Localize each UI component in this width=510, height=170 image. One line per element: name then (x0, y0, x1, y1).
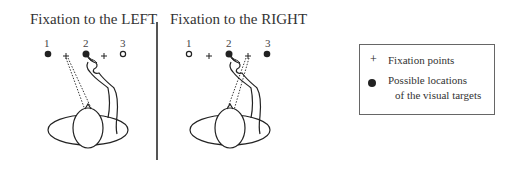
legend-fixation-label: Fixation points (388, 53, 454, 67)
legend-target-label-line1: Possible locations (388, 73, 467, 87)
fixation-plus-icon: + (370, 52, 377, 67)
right-panel-drawing (186, 51, 270, 149)
left-panel-drawing (45, 51, 128, 149)
gaze-lines (66, 58, 92, 110)
legend-target-label-line2: of the visual targets (395, 88, 481, 102)
legend-box: + Fixation points Possible locations of … (359, 44, 495, 115)
head-icon (73, 108, 103, 148)
panel-divider (156, 22, 158, 160)
fixation-plus-icon (101, 53, 107, 59)
target-open-icon (186, 51, 191, 56)
target-filled-icon (368, 79, 376, 87)
head-icon (215, 108, 245, 148)
target-filled-icon (264, 51, 271, 58)
target-open-icon (120, 51, 125, 56)
fixation-plus-icon (206, 53, 212, 59)
target-filled-icon (45, 51, 52, 58)
